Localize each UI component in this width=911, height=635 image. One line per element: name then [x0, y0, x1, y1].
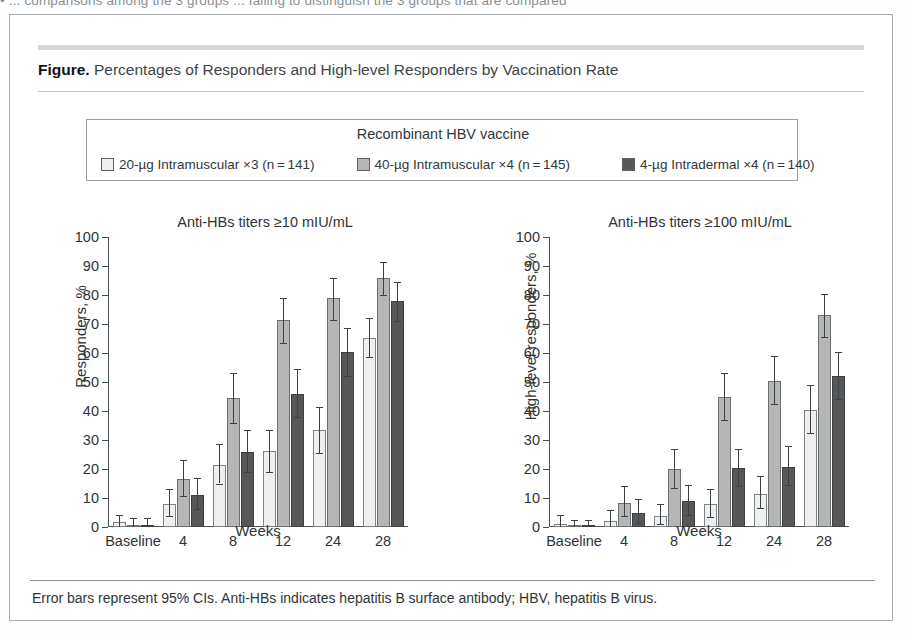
bar-group	[699, 237, 749, 527]
legend-swatch-40ug-im	[357, 158, 370, 171]
error-bar-cap	[366, 357, 373, 358]
error-bar-cap	[280, 343, 287, 344]
bar	[277, 320, 290, 527]
bar	[391, 301, 404, 527]
bar-group	[258, 237, 308, 527]
error-bar	[738, 449, 739, 487]
plot-area-left: 0102030405060708090100Baseline48122428	[108, 237, 408, 527]
error-bar-cap	[280, 298, 287, 299]
figure-title: Figure. Percentages of Responders and Hi…	[38, 61, 868, 85]
error-bar-cap	[394, 321, 401, 322]
y-tick-label: 90	[83, 258, 99, 274]
error-bar-cap	[344, 376, 351, 377]
error-bar-cap	[635, 499, 642, 500]
y-tick-label: 10	[83, 490, 99, 506]
error-bar-cap	[757, 476, 764, 477]
x-axis-title-left: Weeks	[108, 522, 408, 539]
bar	[818, 315, 831, 527]
legend-title: Recombinant HBV vaccine	[87, 126, 799, 142]
error-bar-cap	[757, 508, 764, 509]
error-bar	[169, 489, 170, 516]
error-bar-cap	[835, 399, 842, 400]
chart-legend: Recombinant HBV vaccine 20-µg Intramuscu…	[86, 119, 798, 181]
error-bar-cap	[685, 515, 692, 516]
error-bar-cap	[671, 449, 678, 450]
x-axis-title-right: Weeks	[549, 522, 849, 539]
error-bar-cap	[771, 404, 778, 405]
error-bar-cap	[821, 294, 828, 295]
error-bar-cap	[266, 430, 273, 431]
bar-group	[158, 237, 208, 527]
bar-group	[108, 237, 158, 527]
y-tick-label: 40	[83, 403, 99, 419]
error-bar	[788, 446, 789, 485]
bar-group	[308, 237, 358, 527]
error-bar-cap	[394, 282, 401, 283]
legend-swatch-4ug-id	[622, 158, 635, 171]
legend-item-4ug-id: 4-µg Intradermal ×4 (n = 140)	[622, 157, 815, 172]
decorative-grey-bar	[38, 45, 864, 50]
error-bar-cap	[785, 485, 792, 486]
error-bar-cap	[294, 369, 301, 370]
error-bar-cap	[230, 373, 237, 374]
error-bar-cap	[366, 318, 373, 319]
error-bar-cap	[166, 516, 173, 517]
error-bar	[824, 294, 825, 338]
bar-group	[749, 237, 799, 527]
bar-group	[358, 237, 408, 527]
error-bar-cap	[230, 423, 237, 424]
y-tick-label: 0	[532, 519, 540, 535]
error-bar-cap	[316, 453, 323, 454]
error-bar-cap	[807, 385, 814, 386]
bar-group	[649, 237, 699, 527]
y-tick-label: 70	[83, 316, 99, 332]
error-bar-cap	[707, 489, 714, 490]
error-bar-cap	[330, 278, 337, 279]
chart-panel-high-level-responders: Anti-HBs titers ≥100 mIU/mL High-level r…	[465, 200, 895, 570]
error-bar-cap	[621, 486, 628, 487]
error-bar-cap	[266, 472, 273, 473]
error-bar	[197, 478, 198, 509]
error-bar-cap	[735, 449, 742, 450]
error-bar-cap	[557, 515, 564, 516]
chart-panel-responders: Anti-HBs titers ≥10 mIU/mL Responders, %…	[32, 200, 452, 570]
bar	[377, 278, 390, 527]
y-tick-label: 50	[524, 374, 540, 390]
error-bar	[183, 460, 184, 496]
error-bar-cap	[707, 517, 714, 518]
error-bar	[283, 298, 284, 343]
error-bar-cap	[571, 520, 578, 521]
error-bar-cap	[380, 295, 387, 296]
legend-item-40ug-im: 40-µg Intramuscular ×4 (n = 145)	[357, 157, 571, 172]
bar	[363, 338, 376, 527]
y-tick-label: 40	[524, 403, 540, 419]
error-bar-cap	[821, 337, 828, 338]
figure-page: • ... comparisons among the 3 groups ...…	[0, 0, 911, 635]
bar-group	[208, 237, 258, 527]
error-bar-cap	[771, 356, 778, 357]
error-bar-cap	[807, 433, 814, 434]
running-head: • ... comparisons among the 3 groups ...…	[0, 0, 911, 9]
error-bar	[397, 282, 398, 321]
error-bar	[219, 444, 220, 483]
error-bar-cap	[316, 407, 323, 408]
y-tick-label: 30	[83, 432, 99, 448]
error-bar	[333, 278, 334, 320]
bar-group	[799, 237, 849, 527]
error-bar	[297, 369, 298, 417]
error-bar-cap	[835, 352, 842, 353]
error-bar-cap	[380, 262, 387, 263]
error-bar	[724, 373, 725, 419]
y-tick-label: 60	[524, 345, 540, 361]
error-bar-cap	[621, 516, 628, 517]
figure-label: Figure.	[38, 61, 90, 78]
error-bar	[233, 373, 234, 422]
plot-area-right: 0102030405060708090100Baseline48122428	[549, 237, 849, 527]
error-bar-cap	[685, 485, 692, 486]
footnote-divider	[30, 580, 875, 581]
error-bar-cap	[144, 518, 151, 519]
figure-title-text: Percentages of Responders and High-level…	[90, 61, 619, 78]
legend-swatch-20ug-im	[101, 158, 114, 171]
legend-label-40ug-im: 40-µg Intramuscular ×4 (n = 145)	[375, 157, 571, 172]
y-tick-label: 20	[83, 461, 99, 477]
